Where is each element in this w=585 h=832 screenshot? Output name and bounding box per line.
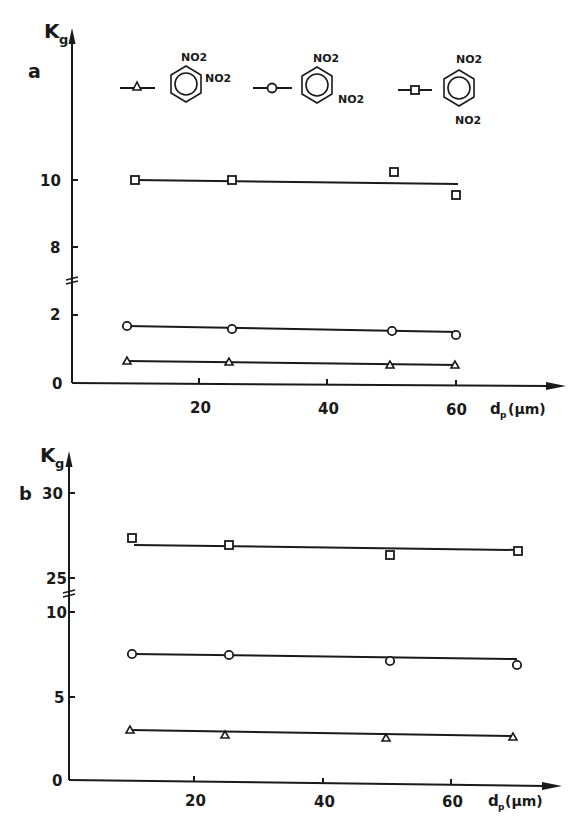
y-axis-arrow-icon [66, 451, 73, 467]
y-tick-label: 5 [54, 689, 64, 707]
square-marker-icon [411, 86, 419, 94]
legend-substituent-label: NO2 [455, 114, 481, 127]
y-tick-label: 8 [50, 239, 60, 257]
x-axis-unit: (µm) [505, 793, 543, 809]
series-ortho-b [128, 650, 521, 669]
legend-item-para [398, 70, 474, 106]
panel-a [66, 28, 566, 390]
x-axis-label-sub: p [500, 410, 507, 420]
benzene-ring-icon [171, 66, 201, 102]
legend-substituent-label: NO2 [338, 93, 364, 106]
y-tick-label: 10 [46, 604, 67, 622]
y-axis-arrow-icon [69, 28, 76, 44]
figure: K g a 10 8 2 0 20 40 60 d p (µm) NO2 NO2… [0, 0, 585, 832]
y-tick-label: 25 [46, 570, 67, 588]
legend-item-ortho [253, 67, 332, 103]
x-tick-label: 40 [314, 793, 335, 811]
panel-label-b: b [19, 483, 32, 504]
x-axis-arrow-icon [542, 782, 562, 790]
fit-line-ortho-a [127, 326, 458, 332]
legend-substituent-label: NO2 [456, 53, 482, 66]
x-tick-label: 20 [185, 792, 206, 810]
fit-line-meta-b [130, 730, 513, 736]
benzene-ring-icon [302, 67, 332, 103]
x-tick-label: 60 [446, 401, 467, 419]
y-tick-label: 0 [52, 375, 62, 393]
x-tick-label: 60 [442, 793, 463, 811]
triangle-marker-icon [133, 82, 141, 90]
fit-line-para-a [135, 180, 458, 184]
x-axis-b [69, 780, 545, 786]
legend-substituent-label: NO2 [313, 52, 339, 65]
panel-label-a: a [28, 60, 41, 82]
y-tick-label: 30 [42, 485, 63, 503]
legend-substituent-label: NO2 [205, 72, 231, 85]
x-tick-label: 40 [318, 400, 339, 418]
circle-marker-icon [268, 84, 277, 93]
x-tick-label: 20 [190, 399, 211, 417]
fit-line-ortho-b [132, 654, 517, 659]
y-tick-label: 0 [52, 772, 62, 790]
x-axis-unit: (µm) [508, 401, 546, 417]
fit-line-para-b [134, 545, 518, 550]
fit-line-meta-a [127, 361, 458, 365]
y-tick-label: 2 [50, 306, 60, 324]
y-axis-label-sub: g [55, 456, 64, 471]
legend-substituent-label: NO2 [181, 51, 207, 64]
y-tick-label: 10 [40, 172, 61, 190]
y-axis-label-sub: g [59, 32, 68, 47]
x-axis-a [72, 383, 548, 386]
x-axis-arrow-icon [546, 382, 566, 390]
legend [120, 66, 474, 106]
benzene-ring-icon [444, 70, 474, 106]
panel-b [63, 451, 562, 790]
x-axis-label-sub: p [498, 802, 505, 812]
legend-item-meta [120, 66, 201, 102]
